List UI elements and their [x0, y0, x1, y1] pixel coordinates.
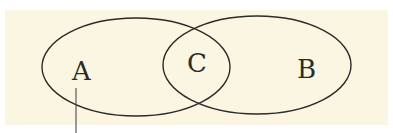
label-intersection-c: C	[187, 50, 207, 76]
label-set-a: A	[72, 58, 91, 84]
venn-diagram-figure: A C B	[0, 0, 393, 133]
label-set-b: B	[297, 56, 316, 82]
